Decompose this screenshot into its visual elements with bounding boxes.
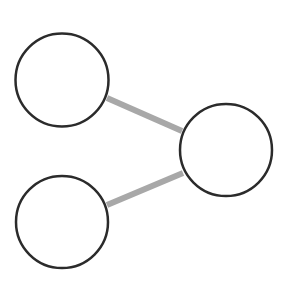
diagram-canvas xyxy=(0,0,292,293)
node-top-left xyxy=(16,34,109,127)
node-right xyxy=(180,104,272,196)
edge-top-left-to-right xyxy=(107,98,182,131)
edge-bottom-left-to-right xyxy=(107,173,183,205)
node-bottom-left xyxy=(16,176,108,268)
graph-svg xyxy=(0,0,292,293)
